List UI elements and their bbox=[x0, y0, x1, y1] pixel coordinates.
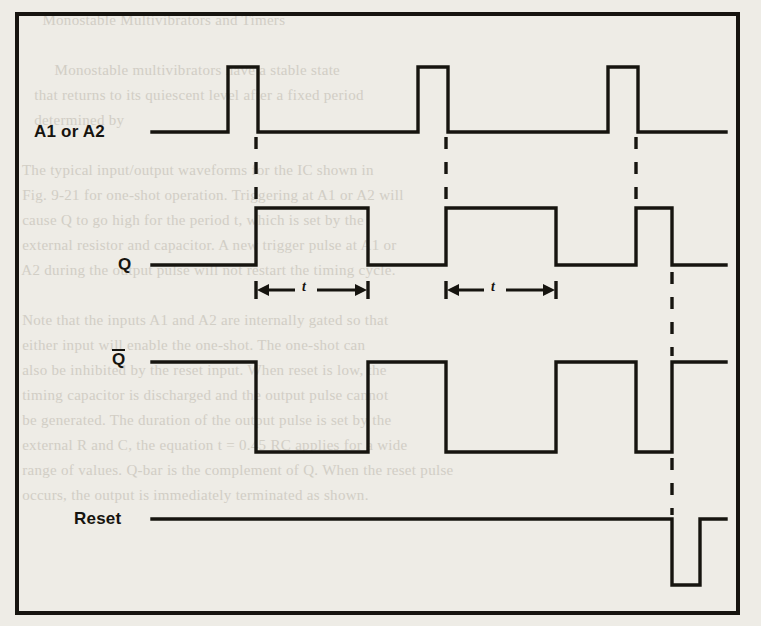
diagram-frame bbox=[17, 14, 738, 613]
t-interval-1-arrowhead-left bbox=[257, 284, 269, 296]
signal-label-reset: Reset bbox=[74, 509, 121, 529]
dimension-label-t-1: t bbox=[302, 279, 306, 295]
dimension-arrow-group bbox=[256, 281, 556, 299]
waveform-group bbox=[152, 67, 726, 585]
t-interval-1-arrowhead-right bbox=[355, 284, 367, 296]
dashed-guide-group bbox=[256, 137, 672, 515]
waveform-a1-or-a2 bbox=[152, 67, 726, 132]
signal-label-a1-or-a2: A1 or A2 bbox=[34, 122, 105, 142]
signal-label-q-bar: Q bbox=[112, 349, 125, 370]
signal-label-q: Q bbox=[118, 255, 131, 275]
figure-canvas: Monostable Multivibrators and Timers Mon… bbox=[0, 0, 761, 626]
timing-diagram-svg bbox=[0, 0, 761, 626]
waveform-reset bbox=[152, 519, 726, 585]
t-interval-2-arrowhead-right bbox=[543, 284, 555, 296]
t-interval-2-arrowhead-left bbox=[447, 284, 459, 296]
dimension-label-t-2: t bbox=[491, 279, 495, 295]
waveform-q bbox=[152, 208, 726, 265]
waveform-q-bar bbox=[152, 362, 726, 452]
